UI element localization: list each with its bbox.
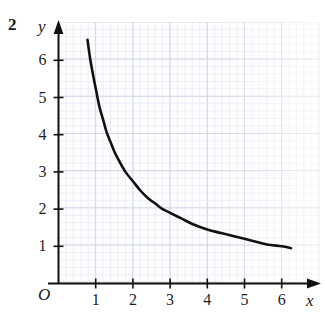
y-tick-label: 2 <box>27 201 47 217</box>
x-tick-label: 6 <box>273 292 291 308</box>
curve-series <box>88 40 291 248</box>
x-tick-label: 3 <box>161 292 179 308</box>
y-tick-label: 4 <box>27 127 47 143</box>
y-axis-label: y <box>38 18 46 35</box>
x-tick-label: 2 <box>124 292 142 308</box>
y-tick-label: 6 <box>27 52 47 68</box>
graph-figure: 2 123456 123456 O x y <box>0 0 325 320</box>
y-tick-label: 3 <box>27 164 47 180</box>
x-axis-label: x <box>306 292 314 309</box>
y-tick-label: 1 <box>27 238 47 254</box>
x-tick-label: 5 <box>236 292 254 308</box>
x-tick-label: 4 <box>198 292 216 308</box>
origin-label: O <box>38 286 50 303</box>
plot-svg <box>0 0 325 320</box>
x-axis <box>48 279 321 289</box>
x-tick-label: 1 <box>87 292 105 308</box>
y-tick-label: 5 <box>27 90 47 106</box>
